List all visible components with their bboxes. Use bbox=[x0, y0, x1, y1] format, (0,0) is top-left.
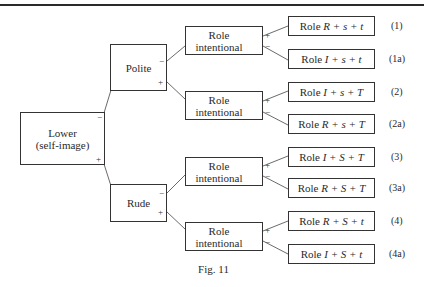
root-minus-sign: − bbox=[97, 113, 102, 122]
leaf-prefix: Role bbox=[300, 86, 324, 98]
rude-plus-sign: + bbox=[158, 208, 163, 217]
role-intentional-node-1: Role intentional bbox=[185, 26, 263, 55]
role-intentional-node-3: Role intentional bbox=[185, 157, 263, 186]
role-sublabel: intentional bbox=[195, 106, 242, 118]
rude-minus-sign: − bbox=[159, 189, 164, 198]
leaf-node-4: Role R + S + t bbox=[288, 211, 375, 231]
leaf-formula: I + S + t bbox=[324, 248, 362, 260]
branch-label: Rude bbox=[127, 197, 150, 209]
leaf-formula: R + s + T bbox=[322, 118, 365, 130]
leaf-node-3a: Role R + S + T bbox=[288, 178, 375, 198]
role-label: Role bbox=[209, 94, 230, 106]
role3-minus-sign: − bbox=[265, 172, 270, 181]
leaf-prefix: Role bbox=[298, 182, 322, 194]
leaf-node-3: Role I + S + T bbox=[288, 147, 375, 167]
role1-plus-sign: + bbox=[265, 31, 270, 40]
leaf-label-2: (2) bbox=[391, 86, 403, 98]
leaf-node-2: Role I + s + T bbox=[288, 82, 375, 102]
role-label: Role bbox=[209, 225, 230, 237]
branch-label: Polite bbox=[126, 62, 152, 74]
leaf-label-3a: (3a) bbox=[389, 182, 405, 194]
leaf-formula: R + S + T bbox=[321, 182, 365, 194]
role1-minus-sign: − bbox=[265, 42, 270, 51]
root-node-lower: Lower (self-image) bbox=[20, 112, 105, 165]
leaf-prefix: Role bbox=[298, 118, 322, 130]
leaf-formula: R + S + t bbox=[323, 215, 364, 227]
leaf-node-4a: Role I + S + t bbox=[288, 244, 375, 264]
figure-caption: Fig. 11 bbox=[0, 263, 427, 275]
leaf-prefix: Role bbox=[299, 151, 323, 163]
leaf-formula: I + s + t bbox=[325, 53, 362, 65]
polite-plus-sign: + bbox=[158, 78, 163, 87]
leaf-node-1a: Role I + s + t bbox=[288, 49, 375, 69]
leaf-prefix: Role bbox=[299, 215, 323, 227]
leaf-prefix: Role bbox=[300, 20, 324, 32]
role-sublabel: intentional bbox=[195, 237, 242, 249]
root-plus-sign: + bbox=[96, 155, 101, 164]
role-intentional-node-2: Role intentional bbox=[185, 91, 263, 120]
root-label: Lower bbox=[48, 127, 77, 139]
leaf-formula: I + S + T bbox=[323, 151, 364, 163]
role-intentional-node-4: Role intentional bbox=[185, 222, 263, 251]
role2-plus-sign: + bbox=[265, 96, 270, 105]
role2-minus-sign: − bbox=[265, 108, 270, 117]
role3-plus-sign: + bbox=[265, 161, 270, 170]
leaf-label-1: (1) bbox=[391, 20, 403, 32]
leaf-prefix: Role bbox=[301, 248, 325, 260]
leaf-label-4a: (4a) bbox=[389, 248, 405, 260]
leaf-formula: R + s + t bbox=[323, 20, 363, 32]
role-sublabel: intentional bbox=[195, 41, 242, 53]
leaf-prefix: Role bbox=[301, 53, 325, 65]
role-sublabel: intentional bbox=[195, 172, 242, 184]
polite-minus-sign: − bbox=[159, 57, 164, 66]
root-sublabel: (self-image) bbox=[36, 139, 90, 151]
role-label: Role bbox=[209, 29, 230, 41]
leaf-label-4: (4) bbox=[391, 215, 403, 227]
role4-minus-sign: − bbox=[265, 238, 270, 247]
leaf-label-2a: (2a) bbox=[389, 118, 405, 130]
role4-plus-sign: + bbox=[265, 226, 270, 235]
leaf-node-2a: Role R + s + T bbox=[288, 114, 375, 134]
leaf-label-1a: (1a) bbox=[389, 53, 405, 65]
role-label: Role bbox=[209, 160, 230, 172]
leaf-label-3: (3) bbox=[391, 151, 403, 163]
leaf-node-1: Role R + s + t bbox=[288, 16, 375, 36]
leaf-formula: I + s + T bbox=[323, 86, 363, 98]
